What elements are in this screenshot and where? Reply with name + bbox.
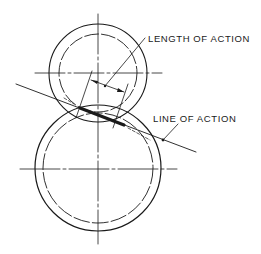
length-of-action-label: LENGTH OF ACTION bbox=[148, 34, 250, 44]
line-of-action-label: LINE OF ACTION bbox=[153, 114, 236, 124]
arrowhead-left bbox=[91, 80, 98, 84]
leader-dot-length bbox=[104, 85, 106, 87]
leader-dot-line bbox=[162, 139, 165, 142]
construction-line-right bbox=[128, 128, 150, 140]
leader-line-of-action bbox=[163, 124, 178, 140]
arrowhead-right bbox=[117, 88, 124, 92]
